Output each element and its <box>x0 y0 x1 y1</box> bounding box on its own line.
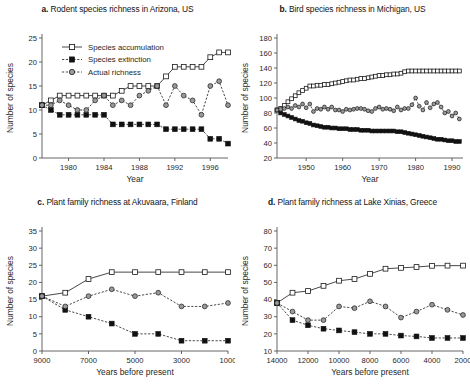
data-point-marker <box>370 75 374 79</box>
data-point-marker <box>133 270 138 275</box>
data-point-marker <box>363 107 367 111</box>
data-point-marker <box>348 128 352 132</box>
data-point-marker <box>128 122 133 127</box>
data-point-marker <box>321 318 326 323</box>
data-point-marker <box>63 290 68 295</box>
data-point-marker <box>66 93 71 98</box>
data-point-marker <box>410 69 414 73</box>
y-tick-label: 20 <box>264 330 272 339</box>
y-tick-label: 20 <box>264 154 272 163</box>
legend-marker-extinction <box>69 57 74 62</box>
data-point-marker <box>445 263 450 268</box>
panel-d-chart: 1020304050607080140001200010000800060004… <box>235 193 470 386</box>
y-axis-title: Number of species <box>240 256 250 326</box>
data-point-marker <box>84 93 89 98</box>
data-point-marker <box>286 114 290 118</box>
data-point-marker <box>414 309 419 314</box>
y-tick-label: 30 <box>264 312 272 321</box>
x-tick-label: 1984 <box>96 163 113 172</box>
data-point-marker <box>286 105 290 109</box>
x-tick-label: 14000 <box>266 356 287 365</box>
data-point-marker <box>306 323 311 328</box>
data-point-marker <box>304 86 308 90</box>
data-point-marker <box>308 102 312 106</box>
data-point-marker <box>202 338 207 343</box>
data-point-marker <box>381 129 385 133</box>
data-point-marker <box>202 270 207 275</box>
y-tick-label: 160 <box>259 49 272 58</box>
data-point-marker <box>443 111 447 115</box>
data-point-marker <box>383 331 388 336</box>
data-point-marker <box>190 64 195 69</box>
data-point-marker <box>75 93 80 98</box>
y-tick-label: 15 <box>29 82 37 91</box>
y-tick-label: 80 <box>264 227 272 236</box>
data-point-marker <box>348 78 352 82</box>
data-point-marker <box>436 101 440 105</box>
data-point-marker <box>110 122 115 127</box>
x-axis-title: Years before present <box>96 367 174 377</box>
data-point-marker <box>425 69 429 73</box>
data-point-marker <box>109 321 114 326</box>
data-point-marker <box>301 119 305 123</box>
y-tick-label: 20 <box>29 278 37 287</box>
data-point-marker <box>439 137 443 141</box>
data-point-marker <box>57 112 62 117</box>
x-tick-label: 7000 <box>80 356 97 365</box>
data-point-marker <box>282 113 286 117</box>
data-point-marker <box>181 64 186 69</box>
data-point-marker <box>457 117 461 121</box>
data-point-marker <box>48 98 53 103</box>
y-axis-title: Number of species <box>5 63 15 133</box>
data-point-marker <box>439 105 443 109</box>
data-point-marker <box>119 88 124 93</box>
data-point-marker <box>319 125 323 129</box>
data-point-marker <box>297 119 301 123</box>
data-point-marker <box>181 127 186 132</box>
data-point-marker <box>146 88 151 93</box>
data-point-marker <box>359 128 363 132</box>
data-point-marker <box>436 69 440 73</box>
y-tick-label: 70 <box>264 244 272 253</box>
data-point-marker <box>133 331 138 336</box>
x-axis-title: Year <box>127 174 144 184</box>
data-point-marker <box>321 283 326 288</box>
panel-b: b. Bird species richness in Michigan, US… <box>235 0 470 193</box>
data-point-marker <box>199 112 204 117</box>
legend: Species accumulationSpecies extinctionAc… <box>62 43 164 77</box>
data-point-marker <box>156 270 161 275</box>
data-point-marker <box>290 309 295 314</box>
y-axis-title: Number of species <box>240 63 250 133</box>
data-point-marker <box>301 102 305 106</box>
data-point-marker <box>341 127 345 131</box>
data-point-marker <box>297 105 301 109</box>
y-tick-label: 30 <box>29 244 37 253</box>
data-point-marker <box>172 64 177 69</box>
data-point-marker <box>156 290 161 295</box>
data-point-marker <box>181 93 186 98</box>
data-point-marker <box>190 127 195 132</box>
data-point-marker <box>410 132 414 136</box>
data-point-marker <box>275 301 280 306</box>
data-point-marker <box>348 108 352 112</box>
data-point-marker <box>337 108 341 112</box>
data-point-marker <box>454 140 458 144</box>
x-tick-label: 8000 <box>362 356 379 365</box>
data-point-marker <box>352 107 356 111</box>
data-point-marker <box>146 122 151 127</box>
data-point-marker <box>388 129 392 133</box>
data-point-marker <box>208 55 213 60</box>
data-point-marker <box>330 105 334 109</box>
data-point-marker <box>383 304 388 309</box>
data-point-marker <box>399 108 403 112</box>
data-point-marker <box>421 134 425 138</box>
data-point-marker <box>344 127 348 131</box>
series-line <box>42 105 228 143</box>
x-tick-label: 1980 <box>60 163 77 172</box>
data-point-marker <box>226 141 231 146</box>
x-tick-label: 3000 <box>173 356 190 365</box>
data-point-marker <box>164 103 169 108</box>
species-richness-figure: a. Rodent species richness in Arizona, U… <box>0 0 470 386</box>
data-point-marker <box>286 100 290 104</box>
data-point-marker <box>344 79 348 83</box>
